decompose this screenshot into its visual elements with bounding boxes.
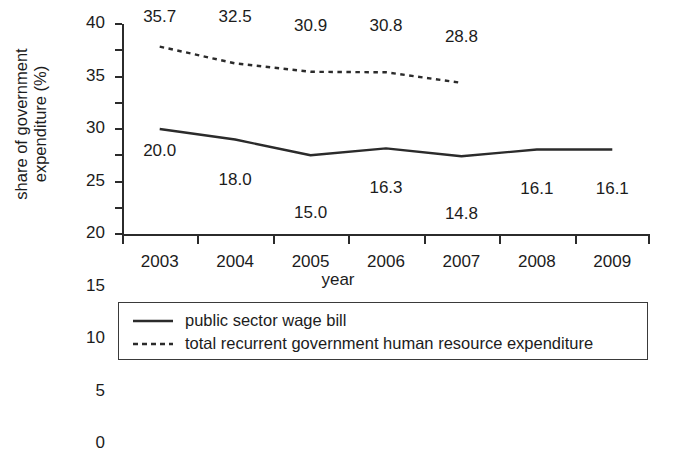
data-label: 32.5 <box>219 7 252 27</box>
data-label: 18.0 <box>219 170 252 190</box>
y-axis-title-line-1: share of government <box>12 48 31 199</box>
y-tick: 0 <box>115 233 122 235</box>
series-lines <box>122 24 650 236</box>
y-tick-label: 30 <box>86 118 105 138</box>
y-tick: 35 <box>115 49 122 51</box>
y-axis-title-line-2: expenditure (%) <box>31 66 50 182</box>
y-tick-label: 20 <box>86 223 105 243</box>
plot-area: 0510152025303540 20032004200520062007200… <box>122 24 650 236</box>
x-tick-label: 2008 <box>518 252 556 272</box>
y-tick-label: 35 <box>86 66 105 86</box>
y-tick: 20 <box>115 128 122 130</box>
y-axis-title: share of government expenditure (%) <box>0 0 62 250</box>
x-tick <box>575 236 577 244</box>
data-label: 28.8 <box>445 27 478 47</box>
data-label: 35.7 <box>143 7 176 27</box>
x-tick <box>348 236 350 244</box>
y-tick-label: 5 <box>96 381 105 401</box>
data-label: 20.0 <box>143 141 176 161</box>
legend-label-1: public sector wage bill <box>185 311 346 330</box>
data-label: 16.1 <box>596 179 629 199</box>
legend-swatch-dotted-icon <box>131 337 175 351</box>
y-tick-label: 40 <box>86 13 105 33</box>
chart-legend: public sector wage bill total recurrent … <box>118 302 648 360</box>
data-label: 15.0 <box>294 203 327 223</box>
y-tick: 25 <box>115 102 122 104</box>
legend-label-2: total recurrent government human resourc… <box>185 334 593 353</box>
y-tick: 15 <box>115 154 122 156</box>
y-tick: 30 <box>115 76 122 78</box>
data-label: 14.8 <box>445 204 478 224</box>
data-label: 30.9 <box>294 16 327 36</box>
y-tick-label: 0 <box>96 433 105 452</box>
x-tick-label: 2009 <box>593 252 631 272</box>
x-tick-label: 2004 <box>216 252 254 272</box>
data-label: 16.1 <box>520 179 553 199</box>
x-tick-label: 2005 <box>292 252 330 272</box>
x-tick-label: 2006 <box>367 252 405 272</box>
y-tick-label: 10 <box>86 328 105 348</box>
data-label: 16.3 <box>369 178 402 198</box>
y-tick-label: 25 <box>86 171 105 191</box>
data-label: 30.8 <box>369 16 402 36</box>
x-tick-label: 2003 <box>141 252 179 272</box>
y-tick: 10 <box>115 181 122 183</box>
x-tick-label: 2007 <box>443 252 481 272</box>
legend-item-public-sector-wage-bill: public sector wage bill <box>131 309 647 332</box>
x-tick <box>648 236 650 244</box>
x-tick <box>424 236 426 244</box>
legend-item-total-recurrent-expenditure: total recurrent government human resourc… <box>131 332 647 355</box>
x-tick <box>273 236 275 244</box>
x-tick <box>499 236 501 244</box>
series-line-1 <box>160 129 613 156</box>
legend-swatch-solid-icon <box>131 314 175 328</box>
x-tick <box>122 236 124 244</box>
series-line-2 <box>160 47 462 83</box>
y-tick: 5 <box>115 207 122 209</box>
x-tick <box>197 236 199 244</box>
y-tick: 40 <box>115 23 122 25</box>
x-axis-title: year <box>0 270 676 290</box>
